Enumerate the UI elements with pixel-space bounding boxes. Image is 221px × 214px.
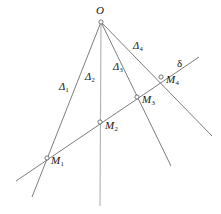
point-label-m3-text: M (142, 93, 151, 105)
intersection-point-m3-marker (135, 95, 139, 99)
point-label-m3: M3 (142, 94, 155, 107)
ray-label-delta-3-subscript: 3 (119, 66, 122, 73)
transversal-label-delta: δ (177, 58, 182, 69)
ray-delta-4-line (101, 22, 212, 136)
ray-label-delta-1-subscript: 1 (65, 86, 68, 93)
point-label-m2-text: M (105, 119, 114, 131)
point-label-m2: M2 (105, 120, 118, 133)
ray-label-delta-4: Δ4 (133, 41, 143, 52)
ray-group (32, 22, 212, 206)
ray-label-delta-2: Δ2 (85, 72, 95, 83)
transversal-label-text: δ (177, 57, 182, 69)
ray-label-delta-2-subscript: 2 (91, 76, 94, 83)
point-label-m1: M1 (51, 155, 64, 168)
point-label-m4-text: M (166, 73, 175, 85)
apex-point-marker (99, 20, 103, 24)
intersection-point-m1-marker (45, 156, 49, 160)
point-label-m2-subscript: 2 (114, 125, 117, 132)
point-label-m4: M4 (166, 74, 179, 87)
figure-canvas (0, 0, 221, 214)
intersection-point-m4-marker (159, 75, 163, 79)
intersection-point-m2-marker (98, 120, 102, 124)
ray-label-delta-4-subscript: 4 (139, 45, 142, 52)
point-label-m1-text: M (51, 154, 60, 166)
apex-label-text: O (96, 4, 104, 16)
ray-delta-1-line (32, 22, 101, 197)
point-label-m3-subscript: 3 (151, 99, 154, 106)
apex-label-o: O (96, 5, 104, 16)
ray-delta-2-line (100, 22, 101, 206)
point-label-m4-subscript: 4 (175, 79, 178, 86)
geometry-figure: O Δ1 Δ2 Δ3 Δ4 δ M1 M2 M3 M4 (0, 0, 221, 214)
ray-label-delta-3: Δ3 (113, 62, 123, 73)
point-label-m1-subscript: 1 (60, 160, 63, 167)
ray-label-delta-1: Δ1 (59, 82, 69, 93)
